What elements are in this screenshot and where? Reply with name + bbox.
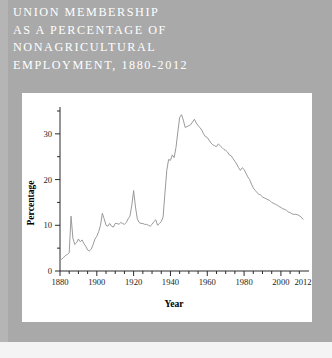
bottom-band <box>0 342 332 358</box>
y-axis-title: Percentage <box>25 180 36 226</box>
tick-labels-layer: 188019001920194019601980200020120102030 <box>43 129 311 287</box>
x-axis-title: Year <box>164 298 184 309</box>
axes-layer <box>60 107 309 271</box>
line-chart-svg: 188019001920194019601980200020120102030 … <box>22 93 312 322</box>
x-tick-label: 2012 <box>294 277 311 287</box>
x-tick-label: 1880 <box>51 277 68 287</box>
figure-container: UNION MEMBERSHIP AS A PERCENTAGE OF NONA… <box>0 0 332 358</box>
x-tick-label: 1940 <box>162 277 179 287</box>
y-tick-label: 30 <box>43 129 52 139</box>
y-tick-label: 10 <box>43 220 52 230</box>
chart-panel: 188019001920194019601980200020120102030 … <box>22 93 312 322</box>
y-tick-label: 0 <box>48 266 52 276</box>
data-series-layer <box>60 115 303 261</box>
left-margin-strip <box>0 0 8 342</box>
data-line <box>60 115 303 261</box>
y-tick-label: 20 <box>43 175 52 185</box>
x-tick-label: 1960 <box>199 277 216 287</box>
chart-title: UNION MEMBERSHIP AS A PERCENTAGE OF NONA… <box>13 4 313 74</box>
x-tick-label: 1980 <box>235 277 252 287</box>
x-tick-label: 1920 <box>125 277 142 287</box>
x-tick-label: 2000 <box>272 277 289 287</box>
x-tick-label: 1900 <box>88 277 105 287</box>
